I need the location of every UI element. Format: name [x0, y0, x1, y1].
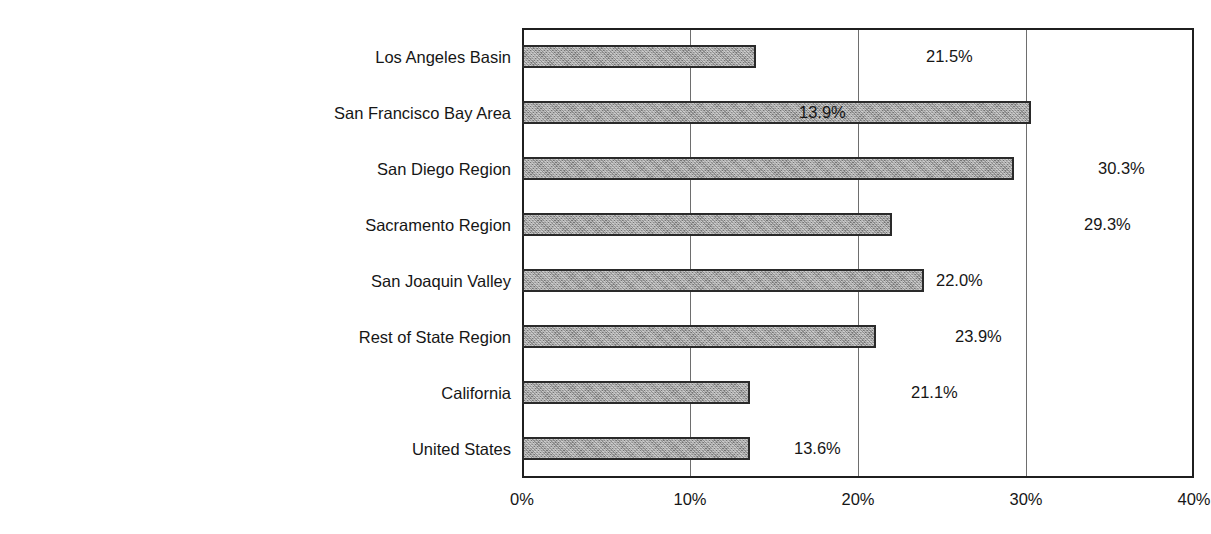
bar-los-angeles-basin	[522, 45, 756, 68]
bar-san-diego-region	[522, 157, 1014, 180]
value-label-text: 22.0%	[936, 271, 983, 289]
category-label-san-joaquin-valley: San Joaquin Valley	[261, 271, 511, 291]
value-label-san-diego-region: 30.3%	[1098, 158, 1145, 178]
value-label-text: 21.1%	[911, 383, 958, 401]
category-label-los-angeles-basin: Los Angeles Basin	[261, 47, 511, 67]
category-label-text: United States	[412, 440, 511, 458]
category-label-text: San Joaquin Valley	[371, 272, 511, 290]
value-label-united-states: 13.6%	[794, 438, 841, 458]
xtick-label-30: 30%	[1009, 489, 1042, 509]
category-label-san-diego-region: San Diego Region	[261, 159, 511, 179]
category-label-text: Los Angeles Basin	[375, 48, 511, 66]
value-label-san-francisco-bay-area: 13.9%	[799, 102, 846, 122]
category-label-text: Sacramento Region	[365, 216, 511, 234]
value-label-los-angeles-basin: 21.5%	[926, 46, 973, 66]
bar-rest-of-state-region	[522, 325, 876, 348]
bar-sacramento-region	[522, 213, 892, 236]
category-label-rest-of-state-region: Rest of State Region	[261, 327, 511, 347]
plot-area	[522, 28, 1194, 478]
xtick-label-10: 10%	[673, 489, 706, 509]
category-label-sacramento-region: Sacramento Region	[261, 215, 511, 235]
gridline-10-percent	[690, 30, 691, 476]
value-label-sacramento-region: 29.3%	[1084, 214, 1131, 234]
gridline-30-percent	[1026, 30, 1027, 476]
gridline-20-percent	[858, 30, 859, 476]
bar-san-francisco-bay-area	[522, 101, 1031, 124]
category-label-california: California	[261, 383, 511, 403]
value-label-california: 21.1%	[911, 382, 958, 402]
category-label-san-francisco-bay-area: San Francisco Bay Area	[261, 103, 511, 123]
value-label-text: 30.3%	[1098, 159, 1145, 177]
value-label-text: 23.9%	[955, 327, 1002, 345]
category-label-text: San Diego Region	[377, 160, 511, 178]
xtick-text: 30%	[1009, 490, 1042, 508]
bar-san-joaquin-valley	[522, 269, 924, 292]
category-label-united-states: United States	[261, 439, 511, 459]
value-label-text: 21.5%	[926, 47, 973, 65]
value-label-rest-of-state-region: 23.9%	[955, 326, 1002, 346]
xtick-label-0: 0%	[510, 489, 534, 509]
xtick-label-20: 20%	[841, 489, 874, 509]
category-label-text: Rest of State Region	[359, 328, 511, 346]
value-label-text: 13.9%	[799, 103, 846, 121]
bar-california	[522, 381, 750, 404]
bar-chart: Los Angeles Basin San Francisco Bay Area…	[261, 0, 622, 534]
bar-united-states	[522, 437, 750, 460]
category-label-text: California	[441, 384, 511, 402]
xtick-text: 20%	[841, 490, 874, 508]
value-label-san-joaquin-valley: 22.0%	[936, 270, 983, 290]
category-label-text: San Francisco Bay Area	[334, 104, 511, 122]
xtick-text: 40%	[1177, 490, 1210, 508]
value-label-text: 13.6%	[794, 439, 841, 457]
value-label-text: 29.3%	[1084, 215, 1131, 233]
xtick-label-40: 40%	[1177, 489, 1210, 509]
xtick-text: 10%	[673, 490, 706, 508]
xtick-text: 0%	[510, 490, 534, 508]
